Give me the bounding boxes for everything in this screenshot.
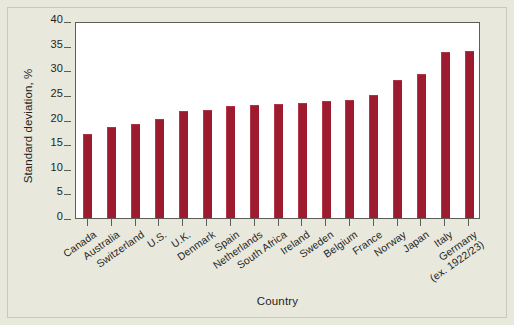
y-axis-tick-label: 40 — [51, 14, 63, 25]
bar-slot — [314, 23, 338, 218]
x-axis-tick-mark — [278, 219, 279, 226]
bar — [179, 111, 188, 218]
y-axis-tick-label: 0 — [57, 211, 63, 222]
x-axis-tick-mark — [444, 219, 445, 226]
bar — [322, 101, 331, 218]
y-axis-tick-mark — [64, 121, 71, 122]
bar-slot — [433, 23, 457, 218]
bar-slot — [100, 23, 124, 218]
plot-area — [75, 22, 480, 219]
bar — [345, 100, 354, 218]
y-axis-tick-mark — [64, 71, 71, 72]
x-axis-tick-mark — [349, 219, 350, 226]
y-axis-tick-label: 25 — [51, 88, 63, 99]
x-axis-tick-label: U.S. — [145, 228, 169, 250]
bar — [226, 106, 235, 218]
y-axis-tick-label: 35 — [51, 39, 63, 50]
x-axis-tick-mark — [87, 219, 88, 226]
bar — [83, 134, 92, 218]
bar — [250, 105, 259, 218]
y-axis-tick-mark — [64, 47, 71, 48]
y-axis-tick-mark — [64, 219, 71, 220]
bar-slot — [147, 23, 171, 218]
bar-slot — [195, 23, 219, 218]
bar-slot — [76, 23, 100, 218]
y-axis-tick-label: 30 — [51, 63, 63, 74]
bar-slot — [457, 23, 481, 218]
y-axis-tick-mark — [64, 145, 71, 146]
bar — [393, 80, 402, 218]
y-axis-title: Standard deviation, % — [22, 36, 34, 216]
x-axis-tick-mark — [420, 219, 421, 226]
x-axis-tick-mark — [468, 219, 469, 226]
x-axis-tick-mark — [397, 219, 398, 226]
x-axis-tick-label: Japan — [401, 228, 432, 255]
bar-slot — [338, 23, 362, 218]
bar-slot — [267, 23, 291, 218]
bar — [369, 95, 378, 218]
bar-slot — [290, 23, 314, 218]
x-axis-tick-mark — [254, 219, 255, 226]
bar-slot — [243, 23, 267, 218]
bar-slot — [362, 23, 386, 218]
x-axis-tick-label-text: Japan — [401, 228, 432, 255]
chart-figure: Standard deviation, % 0510152025303540 C… — [0, 0, 514, 325]
y-axis-tick-label: 20 — [51, 113, 63, 124]
y-axis-tick-label: 5 — [57, 186, 63, 197]
y-axis-tick-mark — [64, 170, 71, 171]
bar-slot — [410, 23, 434, 218]
y-axis-tick-mark — [64, 96, 71, 97]
bar — [131, 124, 140, 218]
bar-slot — [124, 23, 148, 218]
x-axis-tick-mark — [111, 219, 112, 226]
y-axis-tick-label: 15 — [51, 137, 63, 148]
bar — [274, 104, 283, 218]
bar — [203, 110, 212, 218]
bar — [441, 52, 450, 218]
x-axis-tick-label-text: U.S. — [145, 228, 169, 250]
x-axis-tick-mark — [158, 219, 159, 226]
bar-slot — [171, 23, 195, 218]
y-axis-tick-mark — [64, 22, 71, 23]
x-axis-title: Country — [75, 295, 480, 307]
x-axis-tick-mark — [135, 219, 136, 226]
x-axis-tick-mark — [230, 219, 231, 226]
y-axis-tick-label: 10 — [51, 162, 63, 173]
bar-slot — [219, 23, 243, 218]
x-axis-tick-mark — [182, 219, 183, 226]
bar — [465, 51, 474, 218]
x-axis-tick-mark — [373, 219, 374, 226]
x-axis-tick-mark — [206, 219, 207, 226]
bar — [417, 74, 426, 218]
y-axis-tick-mark — [64, 194, 71, 195]
bar — [155, 119, 164, 218]
x-axis-tick-mark — [301, 219, 302, 226]
bars-layer — [76, 23, 479, 218]
bar-slot — [386, 23, 410, 218]
y-axis: Standard deviation, % 0510152025303540 — [0, 0, 75, 241]
bar — [298, 103, 307, 218]
bar — [107, 127, 116, 218]
x-axis-tick-mark — [325, 219, 326, 226]
